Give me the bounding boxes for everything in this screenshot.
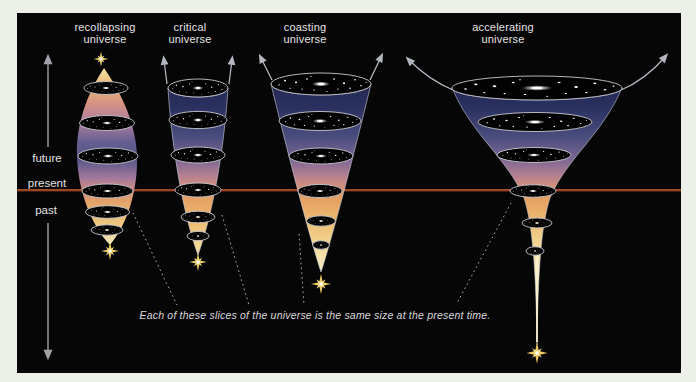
universe-title-critical: critical universe: [168, 21, 211, 45]
galaxy-slice: [478, 112, 592, 131]
universe-title-coasting: coasting universe: [283, 21, 326, 45]
title-line1: coasting: [284, 21, 327, 33]
galaxy-slice: [279, 111, 361, 130]
galaxy-slice: [86, 206, 130, 219]
galaxy-slice-present: [82, 184, 133, 198]
galaxy-slice: [171, 147, 225, 163]
figure-caption: Each of these slices of the universe is …: [140, 309, 491, 321]
axis-label-future: future: [32, 152, 61, 164]
galaxy-slice: [187, 231, 209, 240]
galaxy-slice-present: [175, 183, 221, 197]
title-line2: universe: [83, 33, 126, 45]
universe-expansion-diagram: future present past: [0, 0, 696, 382]
galaxy-slice: [289, 148, 353, 164]
axis-label-present: present: [28, 177, 67, 189]
title-line2: universe: [481, 33, 524, 45]
universe-expansion-figure: future present past: [0, 0, 696, 382]
title-line2: universe: [283, 33, 326, 45]
title-line1: accelerating: [472, 21, 534, 33]
title-line1: critical: [174, 21, 207, 33]
title-line2: universe: [168, 33, 211, 45]
galaxy-slice: [78, 148, 138, 164]
galaxy-slice: [497, 147, 571, 162]
galaxy-slice: [80, 115, 135, 130]
galaxy-slice-present: [510, 185, 556, 197]
galaxy-slice: [84, 82, 128, 95]
galaxy-slice: [313, 241, 330, 249]
galaxy-slice: [452, 76, 622, 100]
galaxy-slice: [169, 111, 227, 128]
axis-label-past: past: [35, 204, 58, 216]
galaxy-slice: [522, 218, 552, 228]
title-line1: recollapsing: [74, 21, 135, 33]
galaxy-slice: [307, 216, 336, 226]
galaxy-slice: [526, 247, 544, 255]
galaxy-slice: [168, 79, 228, 97]
galaxy-slice-present: [298, 184, 342, 197]
galaxy-slice: [91, 225, 123, 235]
galaxy-slice: [271, 73, 371, 95]
universe-title-recollapsing: recollapsing universe: [74, 21, 135, 45]
galaxy-slice: [181, 211, 215, 223]
